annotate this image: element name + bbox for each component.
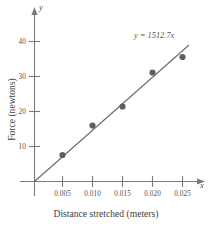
trendline-equation-label: y = 1512.7x <box>134 31 174 40</box>
data-point <box>89 122 95 128</box>
data-point <box>119 103 125 109</box>
x-axis-variable-label: x <box>200 180 204 190</box>
x-axis-title: Distance stretched (meters) <box>0 208 212 219</box>
x-tick-label-0020: 0.020 <box>144 190 161 198</box>
y-axis-arrow-icon <box>31 7 37 15</box>
x-tick-label-0025: 0.025 <box>174 190 191 198</box>
x-tick-label-0005: 0.005 <box>54 190 71 198</box>
data-point <box>59 152 65 158</box>
scatter-plot-figure: 40 30 20 10 0.005 0.010 0.015 0.020 0.02… <box>0 0 212 226</box>
data-point <box>149 69 155 75</box>
x-tick-label-0010: 0.010 <box>84 190 101 198</box>
x-tick-label-0015: 0.015 <box>114 190 131 198</box>
data-point <box>179 54 185 60</box>
trendline <box>35 45 190 182</box>
y-tick-label-40: 40 <box>8 38 26 46</box>
y-axis-variable-label: y <box>39 2 43 12</box>
y-axis-title: Force (newtons) <box>6 50 17 170</box>
